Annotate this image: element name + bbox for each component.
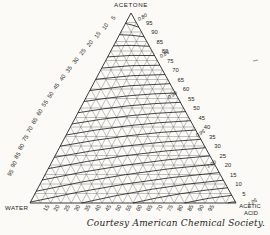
right-axis-tick-label: 70 [172,67,178,73]
bottom-axis-tick-label: 70 [155,204,163,213]
right-axis-tick-label: 85 [157,39,163,45]
left-axis-tick-label: 65 [30,116,39,125]
left-axis-tick-label: 25 [78,48,87,57]
right-axis-tick-label: 35 [209,134,215,140]
acetone-apex-label: ACETONE [114,1,148,8]
right-axis-tick-label: 90 [151,29,157,35]
ternary-chart: 0.800.850.900.951.001.059590858075706560… [0,0,270,220]
right-axis-tick-label: 65 [178,77,184,83]
right-axis-tick-label: 75 [167,58,173,64]
right-axis-tick-label: 20 [225,162,231,168]
left-axis-tick-label: 70 [25,125,34,134]
left-axis-tick-label: 35 [64,65,73,74]
bottom-axis-tick-label: 60 [135,204,143,213]
acetic-acid-corner-label-line1: ACETIC [239,203,260,209]
right-axis-tick-label: 10 [235,181,241,187]
contour-curve [114,45,150,46]
left-axis-tick-label: 30 [71,56,80,65]
grid-line [164,137,199,204]
grid-line [82,61,158,204]
right-axis-tick-label: 15 [230,172,236,178]
bottom-axis-tick-label: 65 [145,204,153,213]
bottom-axis-tick-label: 35 [83,204,91,213]
scan-artifact-mark [253,60,258,61]
left-axis-tick-label: 95 [6,168,15,177]
contour-curve [66,121,190,135]
right-axis-tick-label: 80 [162,48,168,54]
courtesy-caption: Courtesy American Chemical Society. [0,218,265,228]
right-axis-tick-label: 45 [199,115,205,121]
bottom-axis-tick-label: 40 [93,204,101,213]
left-axis-tick-label: 40 [58,73,67,82]
bottom-axis-tick-label: 30 [73,204,81,213]
bottom-axis-tick-label: 55 [124,204,132,213]
water-corner-label: WATER [5,204,28,211]
bottom-axis-tick-label: 25 [63,204,71,213]
right-axis-tick-label: 50 [193,105,199,111]
grid-line [35,194,40,204]
bottom-axis-tick-label: 15 [42,204,50,213]
contour-curve [108,55,155,57]
right-axis-tick-label: 25 [220,153,226,159]
right-axis-tick-label: 30 [214,143,220,149]
right-axis-tick-label: 60 [183,86,189,92]
left-axis-tick-label: 85 [13,151,22,160]
figure: 0.800.850.900.951.001.059590858075706560… [0,0,270,235]
right-axis-tick-label: 95 [146,20,152,26]
grid-line [40,23,136,204]
contour-curve [96,75,165,80]
left-axis-tick-label: 45 [52,82,61,91]
left-axis-tick-label: 60 [35,108,44,117]
bottom-axis-tick-label: 85 [186,204,194,213]
right-axis-tick-label: 55 [188,96,194,102]
bottom-axis-tick-label: 75 [166,204,174,213]
left-axis-tick-label: 20 [85,39,94,48]
bottom-axis-tick-label: 45 [104,204,112,213]
grid-line [75,118,122,204]
right-axis-tick-label: 5 [242,191,245,197]
right-axis-tick-label: 40 [204,124,210,130]
left-axis-tick-label: 50 [46,90,55,99]
left-axis-tick-label: 55 [40,99,49,108]
grid-line [226,194,231,204]
left-axis-tick-label: 15 [93,31,102,40]
left-axis-tick-label: 10 [101,22,110,31]
bottom-axis-tick-label: 50 [114,204,122,213]
grid-line [102,80,168,204]
left-axis-tick-label: 90 [9,160,18,169]
left-axis-tick-label: 80 [17,142,26,151]
bottom-axis-tick-label: 95 [207,204,215,213]
left-axis-tick-label: 5 [110,15,117,21]
left-axis-tick-label: 75 [21,134,30,143]
acetic-acid-corner-label-line2: ACID [244,210,258,216]
contour-curve [185,195,232,203]
bottom-axis-tick-label: 90 [196,204,204,213]
bottom-axis-tick-label: 20 [52,204,60,213]
bottom-axis-tick-label: 80 [176,204,184,213]
contour-curve [84,93,175,102]
grid-line [126,23,226,204]
